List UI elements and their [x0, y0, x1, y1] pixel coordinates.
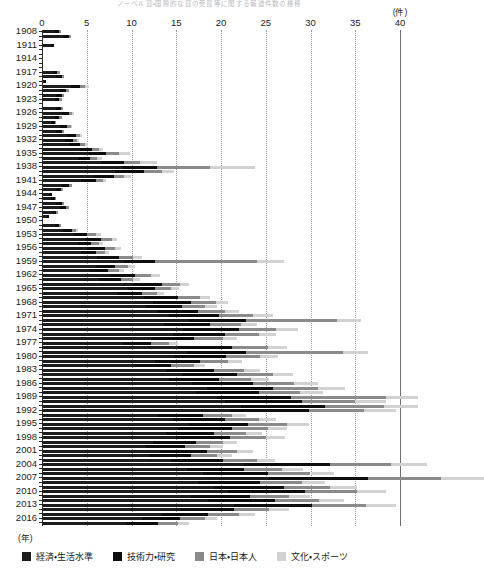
bar-segment	[151, 274, 160, 277]
bar-segment	[214, 486, 284, 489]
bar-segment	[173, 418, 225, 421]
y-tick-mark	[39, 513, 42, 514]
bar-row	[42, 66, 400, 69]
bar-segment	[207, 450, 237, 453]
bar-segment	[65, 139, 73, 142]
bar-segment	[155, 360, 200, 363]
bar-row	[42, 224, 400, 227]
bar-segment	[225, 418, 259, 421]
bar-row	[42, 328, 400, 331]
x-tick-label-35: 35	[350, 17, 361, 28]
bar-segment	[110, 274, 135, 277]
bar-segment	[162, 513, 209, 516]
bar-segment	[60, 125, 67, 128]
bar-segment	[106, 152, 119, 155]
bar-segment	[42, 89, 60, 92]
bar-segment	[42, 161, 101, 164]
y-tick-label-1962: 1962	[0, 268, 37, 279]
bar-row	[42, 301, 400, 304]
bar-segment	[105, 251, 109, 254]
bar-row	[42, 355, 400, 358]
bar-row	[42, 211, 400, 214]
bar-segment	[42, 283, 133, 286]
bar-segment	[92, 148, 99, 151]
bar-segment	[246, 319, 337, 322]
bar-segment	[42, 314, 169, 317]
bar-segment	[239, 328, 277, 331]
x-tick-label-25: 25	[260, 17, 271, 28]
bar-segment	[192, 382, 253, 385]
bar-segment	[126, 522, 158, 525]
bar-segment	[42, 301, 153, 304]
y-tick-mark	[39, 229, 42, 230]
chart-legend: 経済・生活水準技術力・研究日本・日本人文化・スポーツ	[22, 549, 412, 563]
bar-segment	[275, 499, 320, 502]
bar-segment	[78, 242, 91, 245]
bar-segment	[57, 71, 60, 74]
legend-item-0[interactable]: 経済・生活水準	[22, 550, 93, 563]
legend-item-1[interactable]: 技術力・研究	[113, 550, 175, 563]
bar-segment	[123, 342, 152, 345]
x-tick-label-30: 30	[305, 17, 316, 28]
bar-segment	[157, 292, 164, 295]
bar-segment	[42, 351, 187, 354]
bar-segment	[42, 477, 269, 480]
bar-row	[42, 130, 400, 133]
bar-segment	[42, 287, 128, 290]
y-tick-label-1992: 1992	[0, 404, 37, 415]
legend-item-3[interactable]: 文化・スポーツ	[277, 550, 348, 563]
bar-segment	[42, 188, 56, 191]
bar-segment	[42, 107, 56, 110]
y-tick-mark	[39, 139, 42, 140]
y-tick-mark	[39, 171, 42, 172]
y-tick-mark	[39, 486, 42, 487]
bar-segment	[90, 269, 108, 272]
y-tick-mark	[39, 482, 42, 483]
y-tick-mark	[39, 193, 42, 194]
bar-row	[42, 233, 400, 236]
bar-row	[42, 445, 400, 448]
bar-segment	[386, 396, 418, 399]
bar-segment	[244, 463, 330, 466]
y-tick-mark	[39, 202, 42, 203]
bar-row	[42, 179, 400, 182]
bar-segment	[194, 337, 223, 340]
bar-segment	[302, 481, 325, 484]
bar-segment	[241, 323, 257, 326]
bar-segment	[228, 490, 305, 493]
y-tick-label-1926: 1926	[0, 106, 37, 117]
bar-segment	[42, 463, 244, 466]
bar-segment	[42, 504, 234, 507]
legend-item-2[interactable]: 日本・日本人	[195, 550, 257, 563]
y-tick-label-1914: 1914	[0, 52, 37, 63]
bar-row	[42, 44, 400, 47]
bar-segment	[114, 175, 125, 178]
bar-segment	[119, 152, 130, 155]
bar-segment	[189, 423, 248, 426]
bar-segment	[59, 116, 62, 119]
y-tick-mark	[39, 315, 42, 316]
y-tick-mark	[39, 441, 42, 442]
bar-segment	[180, 283, 189, 286]
bar-row	[42, 85, 400, 88]
bar-segment	[166, 369, 214, 372]
bar-segment	[248, 423, 287, 426]
bar-segment	[81, 179, 95, 182]
bar-row	[42, 490, 400, 493]
y-tick-mark	[39, 464, 42, 465]
y-tick-label-2013: 2013	[0, 498, 37, 509]
bar-segment	[217, 454, 231, 457]
bar-segment	[96, 179, 103, 182]
y-tick-mark	[39, 297, 42, 298]
bar-segment	[108, 269, 119, 272]
y-tick-mark	[39, 383, 42, 384]
bar-segment	[173, 333, 225, 336]
bar-segment	[42, 233, 74, 236]
bar-segment	[124, 260, 154, 263]
bar-segment	[185, 445, 210, 448]
bar-segment	[42, 242, 78, 245]
y-tick-mark	[39, 166, 42, 167]
bar-segment	[61, 107, 64, 110]
y-tick-mark	[39, 265, 42, 266]
bar-segment	[178, 522, 189, 525]
